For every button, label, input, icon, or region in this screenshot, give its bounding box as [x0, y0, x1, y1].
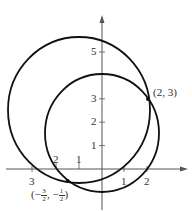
- point-2-3-marker: [146, 97, 150, 101]
- coordinate-plane-figure: 3 2 1 1 2 1 2 3 5 (2, 3) (−32, −12): [0, 0, 192, 211]
- x-tick-label-1: 1: [121, 176, 127, 187]
- x-tick-label-neg1: 1: [76, 154, 82, 165]
- x-tick-label-neg3: 3: [29, 176, 35, 187]
- y-tick-label-3: 3: [91, 93, 97, 104]
- y-tick-label-1: 1: [91, 140, 97, 151]
- x-axis-arrow-icon: [180, 167, 188, 172]
- x-tick-label-2: 2: [144, 176, 150, 187]
- y-tick-label-2: 2: [91, 116, 97, 127]
- point-label-2-3: (2, 3): [153, 87, 177, 98]
- point-label-neg: (−32, −12): [31, 188, 68, 203]
- point-neg-marker: [66, 179, 70, 183]
- y-axis-arrow-icon: [100, 15, 105, 23]
- x-tick-label-neg2: 2: [53, 154, 59, 165]
- y-tick-label-5: 5: [91, 46, 97, 57]
- x-ticks: [32, 163, 147, 172]
